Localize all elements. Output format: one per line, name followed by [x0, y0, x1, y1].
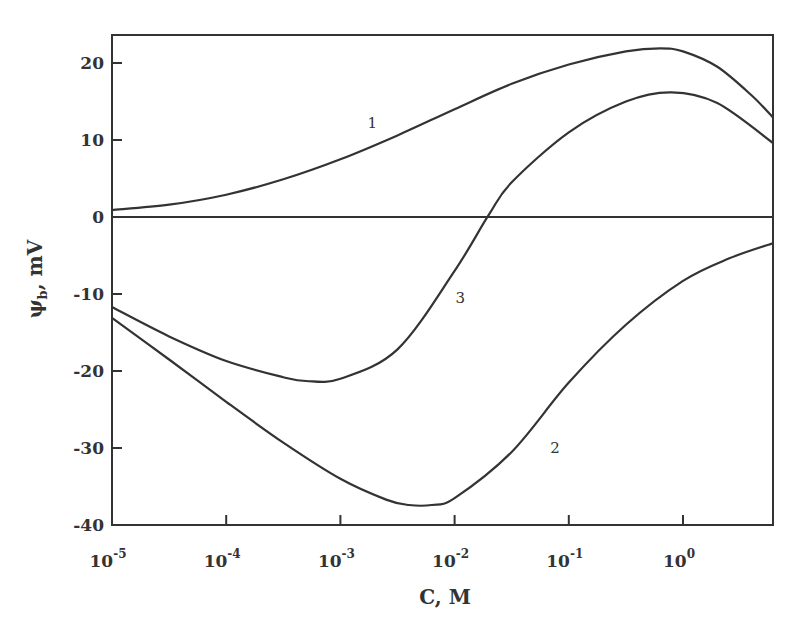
x-tick-label: 10-1 — [546, 547, 583, 571]
curve-label-1: 1 — [368, 114, 378, 132]
y-tick-label: -30 — [73, 438, 104, 458]
y-tick-label: -40 — [73, 515, 104, 535]
chart: 20100-10-20-30-40 10-510-410-310-210-110… — [0, 0, 801, 634]
curve-1 — [112, 48, 773, 210]
y-tick-label: 20 — [80, 53, 104, 73]
y-axis-title: ψb, mV — [23, 239, 50, 318]
curve-label-2: 2 — [550, 439, 560, 457]
x-tick-label: 10-5 — [89, 547, 126, 571]
x-tick-label: 10-2 — [432, 547, 469, 571]
curve-3 — [112, 92, 773, 382]
y-tick-label: -20 — [73, 361, 104, 381]
x-axis: 10-510-410-310-210-1100 — [89, 515, 695, 571]
y-tick-label: 10 — [80, 130, 104, 150]
curve-labels: 123 — [368, 114, 560, 457]
x-axis-title: C, M — [419, 585, 471, 609]
y-tick-label: 0 — [92, 207, 104, 227]
x-tick-label: 100 — [663, 547, 695, 571]
y-axis-title-unit: , mV — [23, 239, 47, 290]
y-axis: 20100-10-20-30-40 — [73, 53, 122, 535]
y-axis-title-symbol: ψ — [23, 299, 47, 318]
curve-2 — [112, 243, 773, 506]
series-group — [112, 48, 773, 505]
y-tick-label: -10 — [73, 284, 104, 304]
plot-frame — [112, 35, 773, 525]
plot-border — [112, 35, 773, 525]
x-tick-label: 10-3 — [318, 547, 355, 571]
y-axis-title-subscript: b — [35, 290, 50, 299]
x-tick-label: 10-4 — [204, 547, 241, 571]
curve-label-3: 3 — [456, 289, 466, 307]
